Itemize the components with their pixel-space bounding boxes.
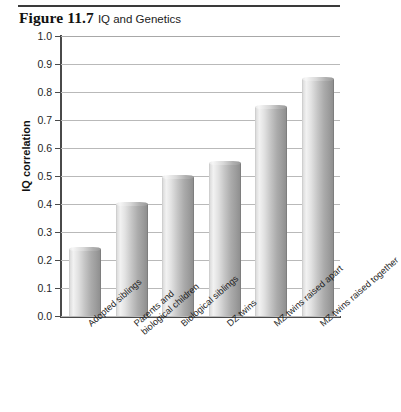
gridline [61, 64, 340, 65]
bar-cap [302, 77, 334, 81]
y-tick-label: 0.2 [22, 255, 52, 266]
gridline [61, 92, 340, 93]
bar [255, 107, 287, 316]
gridline [61, 204, 340, 205]
gridline [61, 120, 340, 121]
y-tick-label: 0.1 [22, 283, 52, 294]
y-tick-label: 0.8 [22, 87, 52, 98]
bar-cap [69, 247, 101, 251]
gridline [61, 176, 340, 177]
gridline [61, 148, 340, 149]
y-tick-label: 0.0 [22, 311, 52, 322]
bar [69, 249, 101, 316]
bar-cap [209, 161, 241, 165]
y-tick-label: 0.9 [22, 59, 52, 70]
bar-cap [162, 175, 194, 179]
y-tick-label: 0.3 [22, 227, 52, 238]
bar-cap [255, 105, 287, 109]
y-axis-title: IQ correlation [20, 96, 32, 216]
y-tick-label: 0.5 [22, 171, 52, 182]
y-tick-label: 0.4 [22, 199, 52, 210]
gridline [61, 232, 340, 233]
y-tick-label: 1.0 [22, 31, 52, 42]
bar-cap [116, 202, 148, 206]
plot-area [61, 36, 340, 316]
gridline [61, 260, 340, 261]
y-tick-label: 0.7 [22, 115, 52, 126]
y-tick-label: 0.6 [22, 143, 52, 154]
gridline [61, 36, 340, 37]
